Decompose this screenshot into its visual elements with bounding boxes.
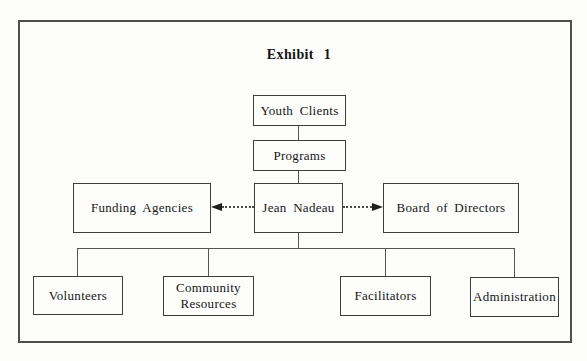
node-facilitators: Facilitators: [340, 276, 431, 316]
connector-bus-horizontal: [77, 248, 515, 249]
node-youth-clients: Youth Clients: [253, 95, 346, 126]
scanned-page: Exhibit 1 Youth Clients Programs Funding…: [0, 0, 587, 361]
node-board-of-directors: Board of Directors: [383, 183, 519, 233]
node-label: Programs: [269, 148, 329, 164]
connector-bus-to-volunteers: [77, 248, 78, 276]
arrow-left-icon: [211, 203, 222, 211]
node-programs: Programs: [253, 140, 346, 171]
dotted-edge-jean-to-board: [343, 206, 372, 208]
node-label: Youth Clients: [256, 103, 342, 119]
node-volunteers: Volunteers: [33, 276, 123, 315]
exhibit-title: Exhibit 1: [218, 47, 380, 63]
node-funding-agencies: Funding Agencies: [73, 183, 211, 233]
node-community-resources: Community Resources: [163, 276, 254, 316]
arrow-right-icon: [372, 203, 383, 211]
connector-programs-to-jean: [298, 171, 299, 183]
connector-youth-to-programs: [298, 126, 299, 140]
connector-jean-to-bus: [298, 233, 299, 248]
node-label: Board of Directors: [393, 200, 510, 216]
node-label: Community Resources: [164, 280, 253, 311]
node-label: Volunteers: [45, 288, 111, 304]
node-label: Administration: [469, 289, 560, 305]
connector-bus-to-community-resources: [208, 248, 209, 276]
node-jean-nadeau: Jean Nadeau: [254, 183, 343, 233]
node-label: Funding Agencies: [87, 200, 197, 216]
node-label: Jean Nadeau: [258, 200, 338, 216]
node-label: Facilitators: [350, 288, 420, 304]
node-administration: Administration: [470, 277, 559, 317]
connector-bus-to-administration: [514, 248, 515, 277]
connector-bus-to-facilitators: [385, 248, 386, 276]
dotted-edge-jean-to-funding: [222, 206, 254, 208]
